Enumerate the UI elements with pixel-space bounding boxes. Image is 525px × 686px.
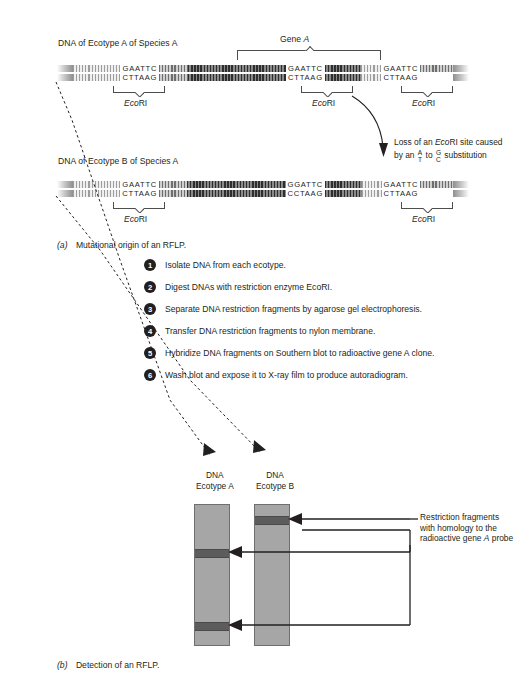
step-text-1: Isolate DNA from each ecotype.: [165, 259, 286, 271]
dna-bar-bottom: [159, 190, 187, 197]
duplex-a-right-end: [453, 62, 469, 84]
dna-bar-top: [159, 181, 187, 188]
callout-arrow-mid: [228, 546, 242, 558]
dna-bar-bottom: [420, 190, 453, 197]
bracket-notch: [135, 92, 144, 97]
dna-bar-bottom: [362, 190, 382, 197]
bracket-notch: [135, 208, 144, 213]
gene-label-prefix: Gene: [280, 34, 303, 44]
duplex-a-segment-1: [73, 62, 120, 84]
site-b1-top: GAATTC: [122, 181, 157, 188]
substitution-to-frac: GC: [436, 149, 441, 163]
dna-duplex-ecotype-b: GAATTC CTTAAG GGATTC CCTAAG GAATTC CTTAA…: [57, 178, 469, 200]
panel-a-caption: (a) Mutational origin of an RFLP.: [57, 240, 186, 251]
duplex-a-segment-5: [420, 62, 453, 84]
gene-a-bracket-label: Gene A: [280, 34, 309, 45]
ecori-bracket-b3: [401, 202, 453, 209]
strand-end-bottom: [453, 190, 469, 197]
gel-band-a-1: [195, 549, 229, 558]
step-bullet-1: 1: [144, 259, 156, 271]
band-annotation-line1: Restriction fragments: [420, 512, 513, 523]
dna-bar-bottom: [187, 190, 285, 197]
lane-a-label-line1: DNA: [196, 470, 234, 481]
step-text-6: Wash blot and expose it to X-ray film to…: [165, 369, 408, 381]
duplex-b-segment-2: [159, 178, 187, 200]
panel-b-caption-text: Detection of an RFLP.: [76, 660, 159, 670]
ecotype-b-header: DNA of Ecotype B of Species A: [58, 156, 178, 167]
dna-bar-top: [325, 181, 361, 188]
restriction-site-a2: GAATTC CTTAAG: [286, 62, 325, 84]
duplex-b-gene-region: [187, 178, 285, 200]
ecori-bracket-b1: [113, 202, 165, 209]
dna-bar-bottom: [420, 74, 453, 81]
site-a3-bottom: CTTAAG: [383, 74, 418, 81]
panel-b-caption-letter: (b): [57, 660, 68, 670]
gel-lane-ecotype-b: [254, 504, 290, 646]
gel-band-b-1: [255, 516, 289, 525]
restriction-site-a3: GAATTC CTTAAG: [381, 62, 420, 84]
dna-bar-top: [73, 181, 120, 188]
dna-duplex-ecotype-a: GAATTC CTTAAG GAATTC CTTAAG GAATTC CTTAA…: [57, 62, 469, 84]
duplex-b-segment-5: [420, 178, 453, 200]
mutated-site-b2: GGATTC CCTAAG: [286, 178, 326, 200]
bracket-notch: [323, 92, 332, 97]
mutation-note-line2: by an AT to GC substitution: [394, 149, 503, 163]
site-b3-bottom: CTTAAG: [384, 190, 419, 197]
step-text-5: Hybridize DNA fragments on Southern blot…: [165, 347, 434, 359]
lane-b-label: DNA Ecotype B: [256, 470, 294, 492]
mutation-arrow-curve: [352, 96, 383, 147]
dna-bar-top: [361, 65, 381, 72]
ecotype-a-header: DNA of Ecotype A of Species A: [58, 38, 177, 49]
ecori-label-a1: EcoRI: [124, 98, 147, 109]
bracket-notch: [423, 92, 432, 97]
dna-bar-bottom: [73, 74, 120, 81]
step-text-2: Digest DNAs with restriction enzyme EcoR…: [165, 281, 332, 293]
strand-end-top: [453, 65, 469, 72]
band-annotation-line3: radioactive gene A probe: [420, 533, 513, 544]
lane-a-label-line2: Ecotype A: [196, 481, 234, 492]
site-a3-top: GAATTC: [383, 65, 418, 72]
panel-a-caption-letter: (a): [57, 240, 68, 250]
band-annotation-line2: with homology to the: [420, 523, 513, 534]
lane-b-label-line1: DNA: [256, 470, 294, 481]
site-b2-top: GGATTC: [288, 181, 324, 188]
guide-arrow-a: [203, 443, 216, 456]
restriction-site-b3: GAATTC CTTAAG: [382, 178, 421, 200]
dna-bar-top: [325, 65, 362, 72]
step-text-3: Separate DNA restriction fragments by ag…: [165, 303, 422, 315]
site-b3-top: GAATTC: [384, 181, 419, 188]
dna-bar-top: [420, 181, 453, 188]
duplex-a-left-end: [57, 62, 73, 84]
site-b1-bottom: CTTAAG: [122, 190, 157, 197]
guide-arrow-b: [253, 440, 266, 453]
dna-bar-bottom: [325, 190, 361, 197]
dna-bar-top: [187, 181, 285, 188]
site-a2-bottom: CTTAAG: [288, 74, 323, 81]
step-text-4: Transfer DNA restriction fragments to ny…: [165, 325, 375, 337]
duplex-b-segment-3: [325, 178, 361, 200]
strand-end-top: [453, 181, 469, 188]
dna-bar-top: [159, 65, 187, 72]
site-b2-bottom: CCTAAG: [288, 190, 324, 197]
gene-a-bracket: [237, 50, 381, 60]
ecori-label-a2: EcoRI: [312, 98, 335, 109]
step-bullet-4: 4: [144, 325, 156, 337]
step-item: 1 Isolate DNA from each ecotype.: [144, 259, 434, 281]
ecori-bracket-a2: [301, 86, 353, 93]
site-a2-top: GAATTC: [288, 65, 323, 72]
mutation-note-line1: Loss of an EcoRI site caused: [394, 136, 503, 149]
duplex-b-left-end: [57, 178, 73, 200]
duplex-a-gene-region: [188, 62, 287, 84]
duplex-a-segment-4: [361, 62, 381, 84]
step-item: 3 Separate DNA restriction fragments by …: [144, 303, 434, 325]
dna-bar-top: [73, 65, 120, 72]
duplex-b-segment-4: [362, 178, 382, 200]
step-bullet-2: 2: [144, 281, 156, 293]
dna-bar-top: [362, 181, 382, 188]
step-item: 2 Digest DNAs with restriction enzyme Ec…: [144, 281, 434, 303]
ecori-label-a3: EcoRI: [412, 98, 435, 109]
mutation-note: Loss of an EcoRI site caused by an AT to…: [394, 136, 503, 163]
site-a1-bottom: CTTAAG: [122, 74, 157, 81]
lane-a-label: DNA Ecotype A: [196, 470, 234, 492]
step-item: 4 Transfer DNA restriction fragments to …: [144, 325, 434, 347]
